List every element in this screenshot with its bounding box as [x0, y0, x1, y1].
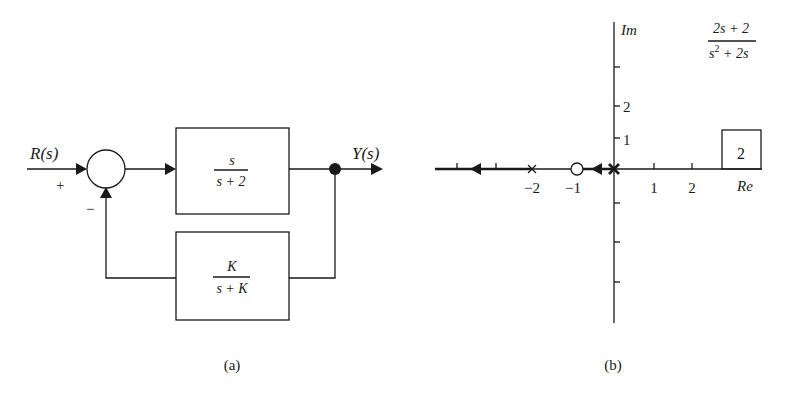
plus-sign: +: [56, 177, 64, 193]
feedback-block: [176, 232, 289, 320]
locus-arrow-center-icon: [591, 163, 602, 175]
feedback-return-line: [289, 169, 335, 278]
minus-sign: −: [86, 201, 94, 217]
locus-arrow-left-icon: [470, 163, 481, 175]
block-diagram: R(s) + s s + 2 Y(s) K s + K − (a): [27, 128, 383, 374]
feedback-denominator: s + K: [216, 281, 248, 296]
figure-canvas: R(s) + s s + 2 Y(s) K s + K − (a): [0, 0, 795, 394]
summing-junction: [87, 150, 125, 188]
output-arrow-icon: [371, 163, 383, 175]
tf-numerator: 2s + 2: [713, 21, 749, 36]
caption-b: (b): [604, 357, 622, 374]
zero-marker: [571, 163, 583, 175]
feedback-numerator: K: [226, 259, 237, 274]
caption-a: (a): [224, 357, 241, 374]
forward-denominator: s + 2: [217, 174, 246, 189]
output-label: Y(s): [352, 144, 380, 163]
imag-axis-label: Im: [620, 22, 637, 38]
imag-tick-label: 1: [623, 132, 631, 148]
imag-tick-label: 2: [623, 99, 631, 115]
real-tick-label: −1: [565, 180, 581, 196]
real-tick-label: −2: [524, 180, 540, 196]
real-tick-label: 1: [650, 180, 658, 196]
imag-ticks: [614, 67, 620, 282]
tf-denominator: s2 + 2s: [709, 43, 749, 61]
forward-numerator: s: [229, 153, 235, 168]
feedback-line: [106, 196, 176, 278]
case-box-label: 2: [737, 145, 745, 162]
input-arrow-icon: [76, 163, 87, 175]
forward-block: [176, 128, 289, 214]
real-axis-label: Re: [736, 178, 753, 194]
feedback-arrow-icon: [100, 187, 112, 198]
input-label: R(s): [29, 144, 59, 163]
real-tick-label: 2: [688, 180, 696, 196]
forward-arrow-icon: [165, 163, 176, 175]
root-locus-plot: Im Re 2 1 −2 −1 1 2: [435, 21, 762, 374]
